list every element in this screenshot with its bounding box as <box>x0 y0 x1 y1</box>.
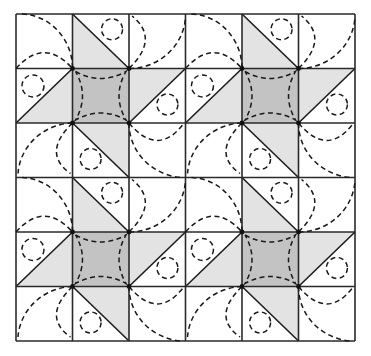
seam-point-dot <box>70 284 75 289</box>
quilting-circle <box>326 257 347 278</box>
quilting-arc <box>188 287 243 338</box>
quilting-circle <box>250 148 271 169</box>
quilting-circle <box>22 75 44 97</box>
quilting-arc <box>129 181 186 233</box>
quilting-arc <box>188 123 243 174</box>
quilting-circle <box>102 19 123 40</box>
quilting-arc <box>299 123 353 140</box>
dark-center-square <box>242 232 299 287</box>
quilting-arc <box>186 216 243 232</box>
seam-point-dot <box>70 66 75 71</box>
quilting-circle <box>80 312 101 333</box>
quilting-arc <box>299 16 315 69</box>
seam-point-dot <box>240 121 245 126</box>
quilting-arc <box>16 53 73 69</box>
seam-point-dot <box>296 121 301 126</box>
quilting-circle <box>102 182 123 203</box>
quilting-arc <box>299 287 353 304</box>
seam-point-dot <box>296 66 301 71</box>
quilting-arc <box>16 216 73 232</box>
quilting-circle <box>191 238 213 260</box>
quilting-circle <box>250 312 271 333</box>
dark-center-square <box>242 69 299 124</box>
quilting-arc <box>18 123 73 174</box>
quilting-arc <box>129 123 183 140</box>
quilting-arc <box>129 180 145 233</box>
quilting-arc <box>299 17 356 69</box>
quilt-svg <box>0 0 371 356</box>
quilting-arc <box>226 123 242 174</box>
seam-point-dot <box>127 230 132 235</box>
quilting-circle <box>157 94 178 115</box>
quilting-circle <box>22 238 44 260</box>
quilting-circle <box>80 148 101 169</box>
quilting-arc <box>299 181 356 233</box>
dark-center-square <box>73 69 130 124</box>
quilting-arc <box>186 53 243 69</box>
seam-point-dot <box>70 230 75 235</box>
quilting-arc <box>299 180 315 233</box>
seam-point-dot <box>127 284 132 289</box>
quilting-arc <box>129 16 145 69</box>
seam-point-dot <box>240 284 245 289</box>
quilting-arc <box>56 287 72 338</box>
seam-point-dot <box>127 121 132 126</box>
quilting-circle <box>326 94 347 115</box>
seam-point-dot <box>296 230 301 235</box>
quilting-arc <box>56 123 72 174</box>
quilting-circle <box>157 257 178 278</box>
quilting-arc <box>18 287 73 338</box>
quilting-arc <box>129 287 183 304</box>
seam-point-dot <box>240 230 245 235</box>
quilt-diagram: Quilt block layout with dashed quilting … <box>0 0 371 356</box>
seam-point-dot <box>296 284 301 289</box>
seam-point-dot <box>240 66 245 71</box>
quilting-circle <box>271 182 292 203</box>
quilting-circle <box>271 19 292 40</box>
seam-point-dot <box>70 121 75 126</box>
quilting-arc <box>226 287 242 338</box>
dark-center-square <box>73 232 130 287</box>
seam-point-dot <box>127 66 132 71</box>
quilting-arc <box>129 17 186 69</box>
quilting-circle <box>191 75 213 97</box>
